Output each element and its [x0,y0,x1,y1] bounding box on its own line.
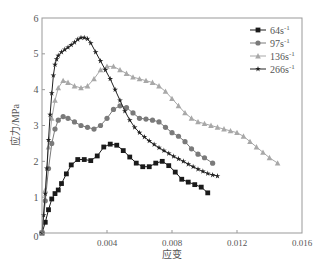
x-tick-label: 0.016 [292,238,313,248]
stress-strain-chart: 0.0040.0080.0120.016 0123456 应变 应力/MPa 6… [0,0,327,271]
y-axis-label: 应力/MPa [9,104,21,146]
legend-item: 64s-1 [250,24,290,36]
x-tick-label: 0.012 [227,238,247,248]
chart-canvas: 0.0040.0080.0120.016 0123456 应变 应力/MPa 6… [0,0,327,271]
legend-label: 97s-1 [270,37,290,49]
legend: 64s-197s-1136s-1266s-1 [250,24,295,75]
legend-item: 97s-1 [250,37,290,49]
series-266s [39,35,220,236]
legend-label: 136s-1 [270,50,295,62]
x-tick-label: 0.008 [162,238,183,248]
y-tick-label: 4 [34,84,39,95]
legend-label: 64s-1 [270,24,290,36]
series-97s [39,103,215,235]
y-tick-label: 1 [34,192,39,203]
y-axis-ticks: 0123456 [34,13,46,243]
y-tick-label: 5 [34,48,39,59]
series-64s [40,142,211,236]
legend-item: 266s-1 [250,63,295,75]
legend-label: 266s-1 [270,63,295,75]
y-tick-label: 0 [34,231,39,242]
legend-item: 136s-1 [250,50,295,62]
y-tick-label: 6 [34,13,39,24]
x-tick-label: 0.004 [97,238,118,248]
plot-area [39,35,280,236]
y-tick-label: 2 [34,156,39,167]
x-axis-label: 应变 [162,248,182,260]
y-tick-label: 3 [34,120,39,131]
